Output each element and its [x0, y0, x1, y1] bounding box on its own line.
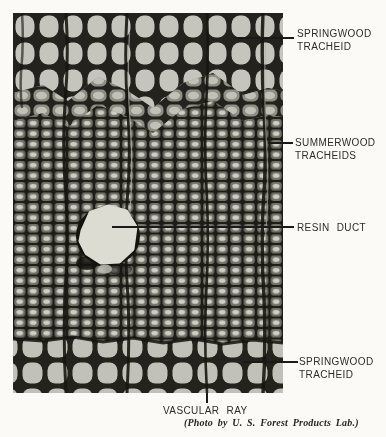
micrograph-photo — [13, 13, 283, 393]
leader-line-summerwood — [268, 142, 293, 144]
wood-cross-section-image — [13, 13, 283, 393]
leader-line-resin-duct — [112, 226, 294, 228]
springwood-region-bottom — [13, 337, 283, 393]
leader-line-vascular-ray — [206, 393, 208, 403]
label-vascular-ray: VASCULAR RAY — [163, 404, 248, 417]
photo-credit-caption: (Photo by U. S. Forest Products Lab.) — [184, 417, 359, 428]
leader-line-springwood-top — [235, 37, 294, 39]
label-summerwood-tracheids: SUMMERWOOD TRACHEIDS — [295, 136, 386, 162]
summerwood-region — [13, 101, 283, 344]
label-resin-duct: RESIN DUCT — [297, 221, 366, 234]
label-springwood-tracheid-bottom: SPRINGWOOD TRACHEID — [299, 355, 386, 381]
label-springwood-tracheid-top: SPRINGWOOD TRACHEID — [297, 27, 386, 53]
leader-line-springwood-bottom — [243, 361, 298, 363]
figure-page: SPRINGWOOD TRACHEID SUMMERWOOD TRACHEIDS… — [0, 0, 386, 437]
